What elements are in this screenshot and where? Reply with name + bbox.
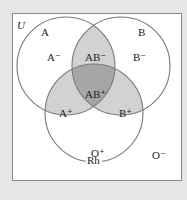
region-a-negative: A⁻ bbox=[47, 51, 61, 63]
region-o-negative: O⁻ bbox=[152, 149, 166, 161]
region-ab-negative: AB⁻ bbox=[85, 51, 106, 63]
universe-label: U bbox=[17, 19, 26, 31]
region-a-positive: A⁺ bbox=[59, 107, 73, 119]
set-label-b: B bbox=[138, 26, 145, 38]
set-label-a: A bbox=[41, 26, 49, 38]
region-ab-positive: AB⁺ bbox=[85, 88, 106, 100]
venn-diagram: U A B Rh A⁻ AB⁻ B⁻ AB⁺ A⁺ B⁺ O⁺ O⁻ bbox=[0, 0, 187, 200]
region-b-positive: B⁺ bbox=[119, 107, 132, 119]
region-o-positive: O⁺ bbox=[91, 147, 105, 159]
region-b-negative: B⁻ bbox=[133, 51, 146, 63]
